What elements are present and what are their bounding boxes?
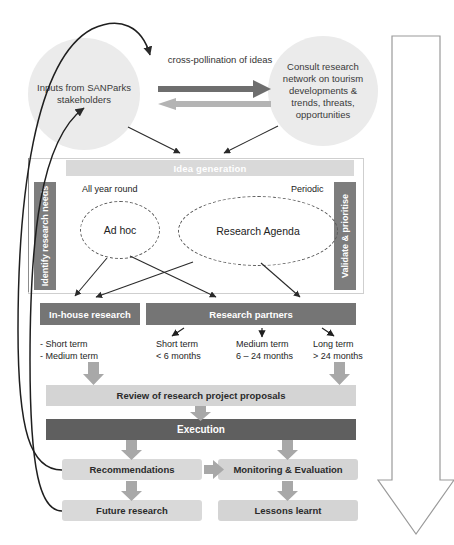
block-arrow-monitoring-to-lessons [277, 481, 298, 501]
bar-execution-label: Execution [177, 424, 225, 435]
frame-left-rule [28, 158, 29, 292]
arrow-partners-to-short [172, 328, 184, 336]
tab-identify-label: Identify research needs [40, 186, 50, 287]
note-medium-line1: Medium term [236, 338, 293, 350]
bar-recommendations-label: Recommendations [90, 464, 175, 475]
arrow-partners-to-long [322, 328, 334, 336]
label-all-year-round: All year round [82, 184, 138, 194]
block-arrow-inhouse-to-review [83, 362, 104, 385]
label-periodic: Periodic [291, 184, 324, 194]
block-arrow-long-to-review [329, 362, 350, 385]
note-medium-term: Medium term 6 – 24 months [236, 338, 293, 362]
cross-pollination-label: cross-pollination of ideas [150, 54, 290, 65]
block-arrow-execution-to-recommendations [121, 440, 142, 460]
ellipse-research-agenda-label: Research Agenda [216, 225, 299, 237]
block-arrow-recommendations-to-future [121, 481, 142, 501]
bar-monitoring-evaluation: Monitoring & Evaluation [218, 459, 358, 480]
bar-future-research: Future research [62, 500, 202, 521]
bar-lessons-learnt: Lessons learnt [218, 500, 358, 521]
tab-validate-prioritise: Validate & prioritise [334, 182, 356, 290]
note-in-house-line2: - Medium term [40, 350, 98, 362]
side-arrow-label: Develop strong relationships and agreeme… [411, 46, 422, 485]
circle-consult-label: Consult research network on tourism deve… [268, 61, 378, 121]
bar-review-label: Review of research project proposals [117, 390, 286, 401]
bar-in-house-research: In-house research [40, 303, 140, 325]
ellipse-research-agenda: Research Agenda [178, 196, 338, 266]
bar-execution: Execution [46, 419, 356, 440]
note-in-house-terms: - Short term - Medium term [40, 338, 98, 362]
cross-pollination-arrow-left [158, 98, 271, 110]
bar-future-research-label: Future research [96, 505, 168, 516]
note-short-term: Short term < 6 months [156, 338, 201, 362]
note-medium-line2: 6 – 24 months [236, 350, 293, 362]
circle-inputs-from-stakeholders: Inputs from SANParks stakeholders [28, 38, 140, 150]
circle-inputs-label: Inputs from SANParks stakeholders [28, 82, 140, 106]
tab-validate-label: Validate & prioritise [340, 194, 350, 278]
arrow-left-circle-to-idea [128, 127, 180, 153]
cross-pollination-arrow-right [158, 80, 271, 98]
idea-generation-bar: Idea generation [66, 160, 354, 176]
note-in-house-line1: - Short term [40, 338, 98, 350]
bar-research-partners-label: Research partners [209, 309, 292, 320]
block-arrow-execution-to-monitoring [277, 440, 298, 460]
bar-review-proposals: Review of research project proposals [46, 385, 356, 406]
note-short-line1: Short term [156, 338, 201, 350]
idea-generation-label: Idea generation [173, 163, 246, 174]
diagram-canvas: Inputs from SANParks stakeholders Consul… [0, 0, 454, 545]
bar-recommendations: Recommendations [62, 459, 202, 480]
ellipse-ad-hoc: Ad hoc [80, 201, 160, 259]
note-long-line1: Long term [313, 338, 363, 350]
tab-identify-research-needs: Identify research needs [34, 182, 56, 290]
ellipse-ad-hoc-label: Ad hoc [104, 224, 137, 236]
note-short-line2: < 6 months [156, 350, 201, 362]
bar-in-house-label: In-house research [49, 309, 131, 320]
note-long-line2: > 24 months [313, 350, 363, 362]
side-arrow-text-wrap: Develop strong relationships and agreeme… [382, 35, 450, 495]
bar-monitoring-label: Monitoring & Evaluation [233, 464, 342, 475]
bar-lessons-learnt-label: Lessons learnt [254, 505, 321, 516]
circle-consult-research-network: Consult research network on tourism deve… [268, 36, 378, 146]
arrow-right-circle-to-idea [224, 126, 278, 153]
bar-research-partners: Research partners [146, 303, 356, 325]
note-long-term: Long term > 24 months [313, 338, 363, 362]
